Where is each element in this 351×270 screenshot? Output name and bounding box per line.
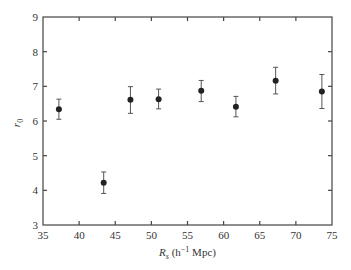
- data-points: [56, 67, 325, 193]
- x-tick-label: 60: [218, 229, 230, 241]
- marker-circle: [156, 96, 162, 102]
- x-tick-label: 35: [38, 229, 50, 241]
- x-tick-label: 45: [110, 229, 122, 241]
- x-tick-label: 75: [327, 229, 339, 241]
- y-axis-ticks: 3456789: [33, 11, 333, 231]
- x-tick-label: 55: [182, 229, 194, 241]
- data-point: [273, 67, 279, 94]
- marker-circle: [273, 78, 279, 84]
- marker-circle: [319, 89, 325, 95]
- scatter-chart: 354045505560657075 3456789 Rs (h−1 Mpc) …: [0, 0, 351, 270]
- x-axis-ticks: 354045505560657075: [38, 17, 339, 241]
- marker-circle: [198, 88, 204, 94]
- x-tick-label: 40: [74, 229, 86, 241]
- marker-circle: [101, 180, 107, 186]
- marker-circle: [127, 97, 133, 103]
- plot-frame: [43, 17, 332, 225]
- x-tick-label: 50: [146, 229, 158, 241]
- data-point: [233, 96, 239, 116]
- data-point: [101, 172, 107, 193]
- y-tick-label: 8: [33, 46, 39, 58]
- y-tick-label: 9: [33, 11, 39, 23]
- x-tick-label: 70: [290, 229, 302, 241]
- y-tick-label: 7: [33, 80, 39, 92]
- data-point: [56, 99, 62, 119]
- y-axis-label: r0: [10, 119, 25, 127]
- y-tick-label: 6: [33, 115, 39, 127]
- marker-circle: [233, 104, 239, 110]
- data-point: [127, 87, 133, 114]
- x-axis-label: Rs (h−1 Mpc): [158, 245, 216, 261]
- y-tick-label: 4: [33, 184, 39, 196]
- y-tick-label: 5: [33, 150, 39, 162]
- data-point: [156, 89, 162, 109]
- data-point: [319, 75, 325, 109]
- y-tick-label: 3: [33, 219, 39, 231]
- data-point: [198, 80, 204, 101]
- x-tick-label: 65: [254, 229, 266, 241]
- marker-circle: [56, 106, 62, 112]
